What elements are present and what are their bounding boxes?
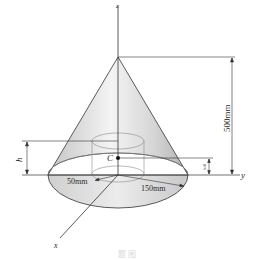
- dim-h-quarter: [208, 159, 211, 174]
- centroid-point: [116, 156, 120, 160]
- dim-500mm-label: 500mm: [222, 104, 232, 132]
- figure-caption: 题 图: [0, 248, 253, 259]
- dim-h-quarter-label: h/4: [202, 163, 207, 170]
- dim-150mm-label: 150mm: [141, 184, 166, 193]
- y-axis-label: y: [240, 170, 245, 180]
- cone-diagram: z y x 500mm h h/4 C 50mm 150mm: [0, 0, 253, 260]
- dim-50mm-label: 50mm: [67, 177, 88, 186]
- dim-h-label: h: [14, 157, 24, 162]
- z-axis-label: z: [115, 2, 119, 10]
- centroid-label: C: [107, 153, 114, 163]
- dim-h: [26, 142, 29, 174]
